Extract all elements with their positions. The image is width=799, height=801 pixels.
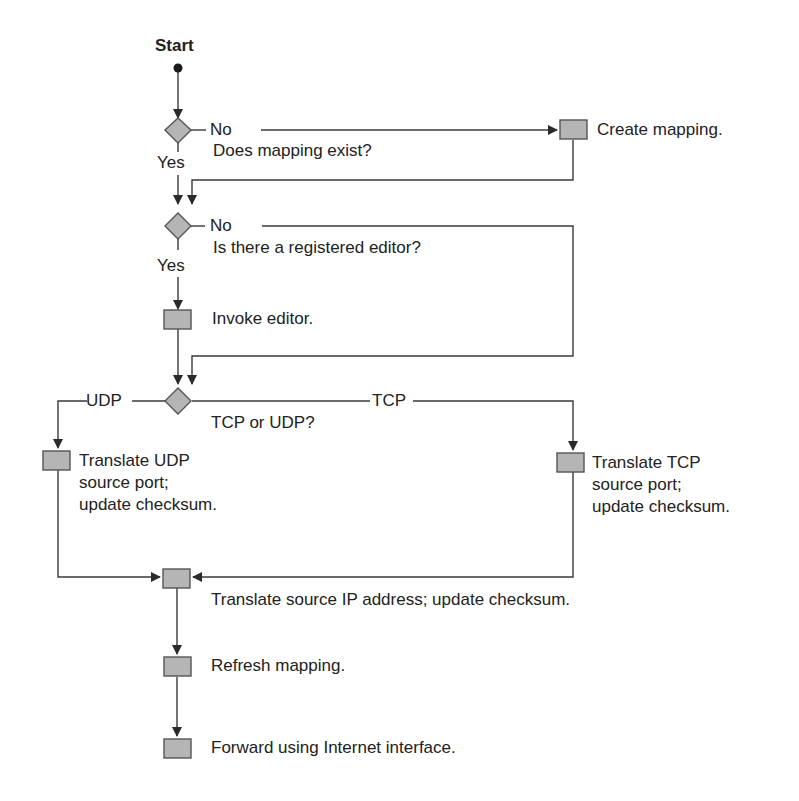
d1-yes-label: Yes — [157, 152, 185, 173]
process-label-forward: Forward using Internet interface. — [211, 737, 456, 758]
d2-no-label: No — [210, 215, 232, 236]
decision-diamond-d3 — [165, 388, 191, 414]
decision-diamond-d2 — [165, 213, 191, 239]
process-box-create-mapping — [560, 120, 587, 139]
process-box-forward — [164, 739, 191, 758]
process-box-invoke-editor — [164, 310, 191, 329]
edge-d3-tcp — [413, 401, 573, 450]
process-box-translate-udp — [43, 451, 70, 470]
process-box-refresh-mapping — [164, 657, 191, 676]
d3-udp-label: UDP — [86, 390, 122, 411]
process-box-translate-ip — [163, 569, 190, 588]
process-label-translate-ip: Translate source IP address; update chec… — [211, 589, 570, 610]
process-label-translate-tcp: Translate TCP source port; update checks… — [592, 452, 730, 518]
process-label-refresh-mapping: Refresh mapping. — [211, 655, 345, 676]
d2-question: Is there a registered editor? — [213, 237, 421, 258]
edge-tcp-ip — [193, 472, 573, 577]
edge-d3-udp — [58, 401, 87, 448]
d3-question: TCP or UDP? — [211, 412, 315, 433]
start-label: Start — [155, 35, 194, 56]
process-label-create-mapping: Create mapping. — [597, 119, 723, 140]
process-label-translate-udp: Translate UDP source port; update checks… — [79, 450, 217, 516]
process-label-invoke-editor: Invoke editor. — [212, 308, 313, 329]
decision-diamond-d1 — [165, 118, 191, 143]
d1-question: Does mapping exist? — [213, 140, 372, 161]
start-node-dot — [174, 64, 183, 73]
d1-no-label: No — [210, 119, 232, 140]
process-box-translate-tcp — [557, 453, 584, 472]
d3-tcp-label: TCP — [372, 390, 406, 411]
d2-yes-label: Yes — [157, 255, 185, 276]
